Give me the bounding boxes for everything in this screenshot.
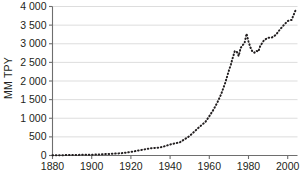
svg-text:1880: 1880 — [41, 160, 65, 172]
svg-text:4 000: 4 000 — [20, 0, 46, 12]
y-axis-ticklabels: 05001 0001 5002 0002 5003 0003 5004 000 — [20, 0, 46, 161]
data-series-line — [53, 10, 296, 155]
svg-text:1940: 1940 — [158, 160, 182, 172]
svg-text:1980: 1980 — [237, 160, 261, 172]
svg-text:2 000: 2 000 — [20, 75, 46, 87]
svg-text:1900: 1900 — [80, 160, 104, 172]
svg-text:1920: 1920 — [119, 160, 143, 172]
svg-text:3 000: 3 000 — [20, 37, 46, 49]
svg-text:3 500: 3 500 — [20, 19, 46, 31]
line-chart-plot: 05001 0001 5002 0002 5003 0003 5004 000 … — [0, 0, 304, 176]
svg-text:2 500: 2 500 — [20, 56, 46, 68]
svg-text:1960: 1960 — [198, 160, 222, 172]
chart-container: MM TPY 05001 0001 5002 0002 5003 0003 50… — [0, 0, 304, 176]
gridlines — [53, 7, 298, 137]
svg-text:1 500: 1 500 — [20, 93, 46, 105]
svg-text:500: 500 — [29, 130, 47, 142]
svg-text:1 000: 1 000 — [20, 112, 46, 124]
svg-text:2000: 2000 — [276, 160, 300, 172]
x-axis-ticklabels: 1880190019201940196019802000 — [41, 160, 300, 172]
